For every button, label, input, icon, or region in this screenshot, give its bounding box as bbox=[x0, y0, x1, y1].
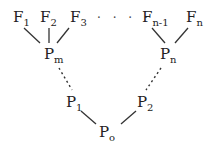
node-pm: Pm bbox=[44, 47, 64, 65]
node-fn-1: Fn-1 bbox=[142, 10, 169, 28]
edge-fn-pn bbox=[175, 28, 188, 43]
edge-pm-p1 bbox=[59, 68, 72, 90]
edge-f1-pm bbox=[24, 28, 40, 43]
node-f2: F2 bbox=[40, 10, 57, 28]
edge-p1-po bbox=[81, 111, 96, 124]
node-p2: P2 bbox=[137, 95, 153, 113]
edge-p2-po bbox=[121, 111, 136, 124]
node-fn: Fn bbox=[186, 10, 203, 28]
edge-pn-p2 bbox=[146, 68, 161, 90]
node-pn: Pn bbox=[160, 47, 177, 65]
node-p1: P1 bbox=[66, 95, 82, 113]
node-f3: F3 bbox=[70, 10, 87, 28]
node-f1: F1 bbox=[13, 10, 30, 28]
tree-diagram: F1 F2 F3 · · · · Fn-1 Fn Pm Pn P1 P2 Po bbox=[0, 0, 212, 146]
edge-fn1-pn bbox=[152, 28, 165, 43]
edge-f3-pm bbox=[57, 28, 69, 43]
node-po: Po bbox=[99, 125, 115, 143]
